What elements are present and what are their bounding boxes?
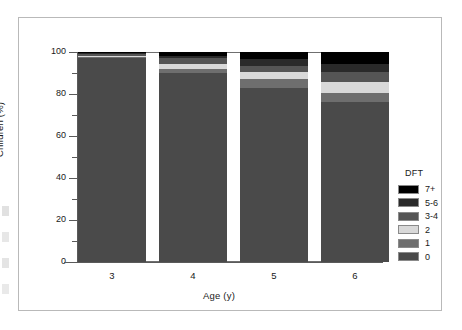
- x-tick-label-6: 6: [321, 270, 389, 281]
- legend-swatch-0: [398, 252, 419, 261]
- legend-entry-3-4: 3-4: [398, 210, 458, 222]
- x-tick-label-4: 4: [159, 270, 227, 281]
- legend-swatch-5-6: [398, 198, 419, 207]
- bar-segment-dft-7+: [240, 52, 308, 59]
- legend-entry-2: 2: [398, 224, 458, 236]
- plot-area: [78, 52, 382, 262]
- bar-segment-dft-2: [240, 72, 308, 79]
- bar-age-5: [240, 52, 308, 262]
- bar-segment-dft-2: [321, 82, 389, 93]
- legend-label-2: 2: [425, 225, 430, 235]
- legend-swatch-1: [398, 239, 419, 248]
- bar-segment-dft-1: [321, 93, 389, 102]
- x-axis-title-text: Age (y): [203, 290, 235, 301]
- y-tick-major: [69, 178, 77, 179]
- bar-segment-dft-3-4: [321, 72, 389, 83]
- legend-label-7+: 7+: [425, 184, 435, 194]
- legend-label-0: 0: [425, 252, 430, 262]
- legend-entry-0: 0: [398, 251, 458, 263]
- bar-segment-dft-7+: [321, 52, 389, 64]
- legend-swatch-2: [398, 225, 419, 234]
- bar-segment-dft-0: [159, 73, 227, 262]
- scan-edge-artifacts: [0, 0, 14, 330]
- x-axis-title: Age (y): [0, 290, 462, 301]
- y-tick-major: [69, 220, 77, 221]
- legend-title: DFT: [405, 168, 458, 178]
- legend-label-1: 1: [425, 238, 430, 248]
- y-tick-major: [69, 52, 77, 53]
- bar-segment-dft-0: [321, 102, 389, 262]
- y-tick-label: 40: [42, 172, 66, 182]
- legend-entry-1: 1: [398, 237, 458, 249]
- legend-swatch-3-4: [398, 212, 419, 221]
- bar-age-3: [78, 52, 146, 262]
- bar-segment-dft-1: [240, 79, 308, 87]
- y-tick-major: [69, 136, 77, 137]
- legend-entries: 7+5-63-4210: [398, 183, 458, 263]
- bar-age-6: [321, 52, 389, 262]
- y-tick-label: 100: [42, 46, 66, 56]
- legend-entry-5-6: 5-6: [398, 197, 458, 209]
- y-tick-label: 60: [42, 130, 66, 140]
- x-tick-label-3: 3: [78, 270, 146, 281]
- legend-label-3-4: 3-4: [425, 211, 438, 221]
- bar-segment-dft-0: [78, 58, 146, 262]
- bar-age-4: [159, 52, 227, 262]
- bar-segment-dft-0: [240, 88, 308, 262]
- y-tick-label: 80: [42, 88, 66, 98]
- y-tick-major: [69, 94, 77, 95]
- legend-label-5-6: 5-6: [425, 198, 438, 208]
- x-axis-line: [64, 262, 383, 263]
- y-tick-label: 20: [42, 214, 66, 224]
- x-tick-label-5: 5: [240, 270, 308, 281]
- legend: DFT 7+5-63-4210: [398, 168, 458, 264]
- legend-swatch-7+: [398, 185, 419, 194]
- y-tick-label: 0: [42, 256, 66, 266]
- y-axis-title: Children (%): [0, 102, 5, 157]
- bar-segment-dft-5-6: [321, 64, 389, 72]
- legend-entry-7+: 7+: [398, 183, 458, 195]
